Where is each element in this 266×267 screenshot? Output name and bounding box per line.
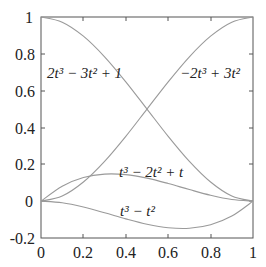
y-tick-labels: 1 0.8 0.6 0.4 0.2 0 -0.2 — [10, 9, 35, 247]
y-tick-1: 1 — [25, 9, 33, 26]
y-tick-0.8: 0.8 — [15, 46, 35, 63]
x-tick-0.2: 0.2 — [73, 244, 93, 261]
x-tick-0.4: 0.4 — [116, 244, 136, 261]
curves — [41, 17, 253, 228]
x-tick-1: 1 — [249, 244, 257, 261]
x-tick-labels: 0 0.2 0.4 0.6 0.8 1 — [37, 244, 257, 261]
label-h11: t³ − t² — [120, 203, 155, 219]
label-h01: −2t³ + 3t² — [180, 65, 241, 81]
hermite-basis-chart: 1 0.8 0.6 0.4 0.2 0 -0.2 0 0.2 0.4 0.6 0… — [0, 0, 266, 267]
y-tick-0.2: 0.2 — [15, 156, 35, 173]
label-h10: t³ − 2t² + t — [119, 164, 184, 180]
y-tick-0.4: 0.4 — [15, 120, 35, 137]
x-tick-0.8: 0.8 — [201, 244, 221, 261]
y-tick-0.6: 0.6 — [15, 83, 35, 100]
x-tick-0.6: 0.6 — [158, 244, 178, 261]
y-tick-0: 0 — [25, 193, 33, 210]
x-tick-0: 0 — [37, 244, 45, 261]
y-tick-neg0.2: -0.2 — [10, 230, 35, 247]
label-h00: 2t³ − 3t² + 1 — [47, 65, 122, 81]
